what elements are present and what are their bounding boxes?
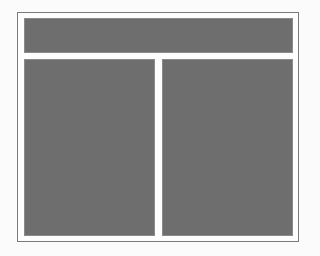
left-column-block xyxy=(24,59,155,236)
header-block xyxy=(24,18,293,53)
right-column-block xyxy=(162,59,293,236)
